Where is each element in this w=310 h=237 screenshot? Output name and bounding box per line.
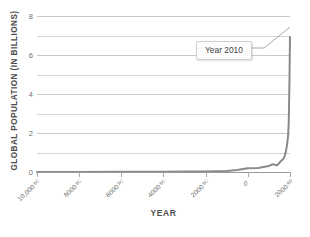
- population-chart: GLOBAL POPULATION (IN BILLIONS) 86420 10…: [0, 0, 310, 237]
- y-tick-label-0: 0: [3, 168, 33, 177]
- x-tick-2000: [290, 172, 291, 177]
- x-tick-8000: [79, 172, 80, 177]
- series-path: [37, 37, 290, 172]
- x-tick-10,000: [37, 172, 38, 177]
- x-tick-label-10,000: 10,000 BC: [16, 178, 42, 202]
- y-tick-label-2: 2: [3, 129, 33, 138]
- x-tick-0: [248, 172, 249, 177]
- x-tick-label-6000: 6000 BC: [104, 178, 126, 198]
- x-tick-4000: [163, 172, 164, 177]
- x-tick-6000: [121, 172, 122, 177]
- x-axis-title: YEAR: [37, 208, 290, 218]
- y-tick-label-8: 8: [3, 12, 33, 21]
- x-tick-label-4000: 4000 BC: [147, 178, 169, 198]
- x-tick-label-2000: 2000 AD: [273, 178, 294, 198]
- y-tick-label-6: 6: [3, 51, 33, 60]
- x-tick-label-2000: 2000 BC: [189, 178, 211, 198]
- callout-year-2010[interactable]: Year 2010: [196, 41, 252, 60]
- y-axis-ticks: 86420: [0, 16, 33, 172]
- y-tick-label-4: 4: [3, 90, 33, 99]
- x-tick-label-0: 0: [244, 180, 248, 187]
- x-tick-2000: [206, 172, 207, 177]
- x-tick-label-8000: 8000 BC: [62, 178, 84, 198]
